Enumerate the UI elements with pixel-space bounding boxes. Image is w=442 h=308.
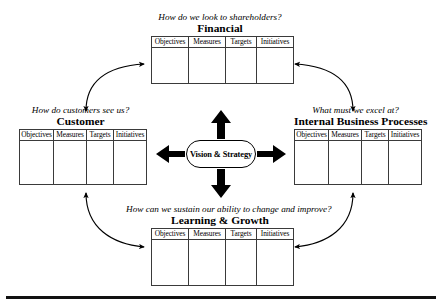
financial-internal-link	[295, 64, 353, 111]
table-header-row: Objectives Measures Targets Initiatives	[152, 229, 294, 240]
cell-objectives[interactable]	[152, 48, 189, 84]
column-header-targets: Targets	[362, 130, 389, 141]
column-header-objectives: Objectives	[152, 229, 189, 240]
vision-and-strategy-label: Vision & Strategy	[190, 150, 252, 159]
bottom-divider-rule	[6, 296, 436, 299]
cell-targets[interactable]	[226, 240, 257, 286]
vision-to-customer-arrow	[156, 145, 185, 163]
vision-and-strategy-box[interactable]: Vision & Strategy	[186, 140, 256, 168]
cell-measures[interactable]	[329, 141, 362, 185]
cell-targets[interactable]	[87, 141, 114, 185]
customer-scorecard-table[interactable]: Objectives Measures Targets Initiatives	[19, 129, 147, 185]
table-row[interactable]	[295, 141, 422, 185]
table-header-row: Objectives Measures Targets Initiatives	[20, 130, 147, 141]
perspective-customer: How do customers see us? Customer Object…	[19, 105, 142, 185]
perspective-learning-and-growth: How can we sustain our ability to change…	[151, 204, 289, 286]
customer-learning-link	[86, 193, 144, 247]
table-row[interactable]	[152, 48, 294, 84]
internal-scorecard-table[interactable]: Objectives Measures Targets Initiatives	[294, 129, 422, 185]
column-header-measures: Measures	[54, 130, 87, 141]
column-header-measures: Measures	[189, 37, 226, 48]
cell-objectives[interactable]	[152, 240, 189, 286]
cell-initiatives[interactable]	[114, 141, 147, 185]
internal-learning-link	[295, 193, 353, 247]
column-header-targets: Targets	[226, 229, 257, 240]
learning-question: How can we sustain our ability to change…	[126, 204, 314, 215]
column-header-objectives: Objectives	[295, 130, 329, 141]
cell-objectives[interactable]	[295, 141, 329, 185]
customer-financial-link	[86, 64, 144, 111]
vision-to-financial-arrow	[211, 110, 231, 139]
cell-targets[interactable]	[226, 48, 257, 84]
column-header-initiatives: Initiatives	[257, 229, 294, 240]
column-header-targets: Targets	[226, 37, 257, 48]
table-header-row: Objectives Measures Targets Initiatives	[295, 130, 422, 141]
perspective-financial: How do we look to shareholders? Financia…	[151, 12, 289, 84]
table-row[interactable]	[20, 141, 147, 185]
perspective-internal-business-processes: What must we excel at? Internal Business…	[294, 105, 417, 185]
customer-title: Customer	[19, 115, 142, 128]
internal-title: Internal Business Processes	[294, 115, 417, 128]
learning-title: Learning & Growth	[151, 214, 289, 227]
column-header-objectives: Objectives	[152, 37, 189, 48]
column-header-initiatives: Initiatives	[257, 37, 294, 48]
column-header-measures: Measures	[189, 229, 226, 240]
cell-objectives[interactable]	[20, 141, 54, 185]
balanced-scorecard-diagram: How do we look to shareholders? Financia…	[0, 0, 442, 308]
column-header-initiatives: Initiatives	[114, 130, 147, 141]
financial-title: Financial	[151, 22, 289, 35]
table-row[interactable]	[152, 240, 294, 286]
vision-to-internal-arrow	[257, 145, 286, 163]
cell-initiatives[interactable]	[257, 240, 294, 286]
column-header-targets: Targets	[87, 130, 114, 141]
column-header-initiatives: Initiatives	[389, 130, 422, 141]
cell-measures[interactable]	[54, 141, 87, 185]
vision-and-strategy-node[interactable]: Vision & Strategy	[186, 140, 256, 168]
cell-measures[interactable]	[189, 240, 226, 286]
column-header-objectives: Objectives	[20, 130, 54, 141]
cell-measures[interactable]	[189, 48, 226, 84]
cell-initiatives[interactable]	[389, 141, 422, 185]
learning-scorecard-table[interactable]: Objectives Measures Targets Initiatives	[151, 228, 294, 286]
table-header-row: Objectives Measures Targets Initiatives	[152, 37, 294, 48]
column-header-measures: Measures	[329, 130, 362, 141]
cell-targets[interactable]	[362, 141, 389, 185]
cell-initiatives[interactable]	[257, 48, 294, 84]
vision-to-learning-arrow	[211, 169, 231, 198]
financial-scorecard-table[interactable]: Objectives Measures Targets Initiatives	[151, 36, 294, 84]
